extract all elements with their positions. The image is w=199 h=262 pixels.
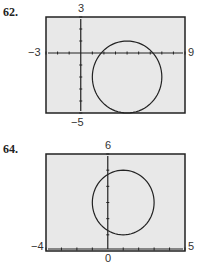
chart-canvas <box>0 0 199 262</box>
calculator-screen <box>46 154 185 251</box>
calculator-screen <box>46 17 185 113</box>
